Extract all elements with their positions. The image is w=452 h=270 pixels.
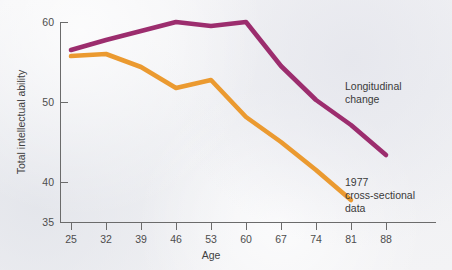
x-tick-label-74: 74: [310, 233, 322, 245]
annotation-longitudinal-line2: change: [345, 93, 380, 105]
x-tick-label-46: 46: [170, 233, 182, 245]
series-line-longitudinal: [71, 22, 386, 155]
y-tick-group: [61, 23, 69, 183]
annotation-longitudinal-change: Longitudinal change: [345, 80, 402, 105]
x-tick-label-32: 32: [100, 233, 112, 245]
x-tick-label-81: 81: [345, 233, 357, 245]
x-tick-label-25: 25: [65, 233, 77, 245]
annotation-longitudinal-line1: Longitudinal: [345, 80, 402, 92]
x-tick-label-53: 53: [205, 233, 217, 245]
annotation-cross-sectional-line2: cross-sectional: [345, 189, 415, 201]
x-tick-label-88: 88: [380, 233, 392, 245]
annotation-cross-sectional-line1: 1977: [345, 176, 369, 188]
x-axis-title: Age: [202, 249, 221, 261]
y-tick-labels: 60 50 40 35: [42, 16, 54, 228]
y-tick-label-50: 50: [42, 96, 54, 108]
line-chart: 60 50 40 35 25 32 39 46 53 60 67 74: [0, 0, 452, 270]
x-tick-labels: 25 32 39 46 53 60 67 74 81 88: [65, 233, 392, 245]
chart-screenshot: 60 50 40 35 25 32 39 46 53 60 67 74: [0, 0, 452, 270]
x-tick-label-67: 67: [275, 233, 287, 245]
x-tick-label-60: 60: [240, 233, 252, 245]
annotation-cross-sectional-line3: data: [345, 202, 366, 214]
x-tick-label-39: 39: [135, 233, 147, 245]
series-line-cross-sectional: [71, 54, 351, 200]
annotation-cross-sectional-data: 1977 cross-sectional data: [345, 176, 415, 214]
y-tick-label-60: 60: [42, 16, 54, 28]
y-tick-label-40: 40: [42, 176, 54, 188]
y-axis-title: Total intellectual ability: [15, 69, 27, 174]
x-tick-group: [72, 223, 387, 230]
y-tick-label-35: 35: [42, 216, 54, 228]
